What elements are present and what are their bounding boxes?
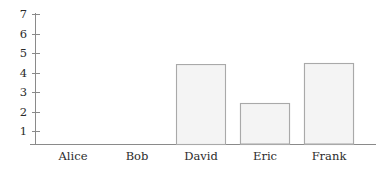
bar-alice xyxy=(177,65,226,145)
bar-chart: 7 6 5 4 3 2 1 Alice Bob David Eric Frank xyxy=(0,0,390,174)
x-tick-label-frank: Frank xyxy=(312,149,348,163)
bar-frank xyxy=(305,64,354,145)
y-tick-labels: 7 6 5 4 3 2 1 xyxy=(20,7,27,138)
y-tick-label-6: 6 xyxy=(20,27,27,41)
x-tick-label-david: David xyxy=(184,149,218,163)
x-tick-label-bob: Bob xyxy=(126,149,149,163)
x-tick-label-eric: Eric xyxy=(253,149,277,163)
y-tick-label-5: 5 xyxy=(20,46,27,60)
y-tick-label-1: 1 xyxy=(20,124,27,138)
bar-eric xyxy=(241,104,290,145)
y-tick-label-2: 2 xyxy=(20,105,27,119)
x-tick-label-alice: Alice xyxy=(58,149,88,163)
x-tick-labels: Alice Bob David Eric Frank xyxy=(58,149,348,163)
y-tick-label-3: 3 xyxy=(20,85,27,99)
y-tick-label-4: 4 xyxy=(20,66,27,80)
chart-canvas: 7 6 5 4 3 2 1 Alice Bob David Eric Frank xyxy=(0,0,390,174)
y-tick-label-7: 7 xyxy=(20,7,27,21)
bar-group xyxy=(177,64,354,145)
